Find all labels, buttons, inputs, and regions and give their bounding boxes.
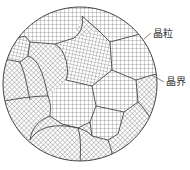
label-grain: 晶粒	[153, 29, 173, 39]
grains	[0, 0, 190, 170]
grain-leader-line	[144, 33, 151, 39]
label-grain-boundary: 晶界	[166, 77, 186, 87]
grain-structure-diagram	[0, 0, 190, 170]
